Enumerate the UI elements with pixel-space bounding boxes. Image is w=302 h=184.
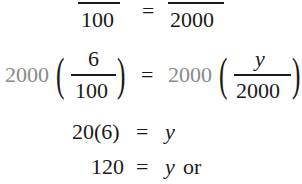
right-close-paren: ) (292, 52, 300, 98)
right-denominator: 2000 (170, 9, 214, 31)
line4-rhs: y (165, 156, 175, 178)
line3-equals: = (136, 121, 148, 143)
equals-sign: = (142, 0, 154, 22)
right-open-paren: ( (219, 52, 227, 98)
left-close-paren: ) (117, 52, 125, 98)
line4-suffix: or (183, 156, 201, 178)
line4-equals: = (136, 156, 148, 178)
left-multiplier: 2000 (5, 64, 49, 86)
fraction-bar-left (78, 2, 120, 4)
right-fraction-bar (234, 74, 291, 76)
left-open-paren: ( (56, 52, 64, 98)
line4-lhs: 120 (91, 156, 124, 178)
right-numerator: y (255, 48, 265, 70)
right-denominator: 2000 (236, 80, 280, 102)
left-fraction-bar (71, 74, 116, 76)
left-numerator: 6 (88, 48, 99, 70)
line3-lhs: 20(6) (72, 121, 120, 143)
equals-sign: = (141, 64, 153, 86)
fraction-bar-right (168, 2, 224, 4)
left-denominator: 100 (81, 9, 114, 31)
right-multiplier: 2000 (168, 64, 212, 86)
line3-rhs: y (165, 121, 175, 143)
left-denominator: 100 (75, 80, 108, 102)
